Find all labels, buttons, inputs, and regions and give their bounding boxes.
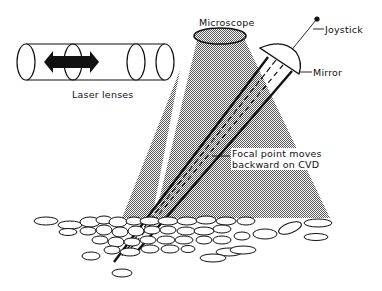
mirror-label: Mirror bbox=[313, 67, 342, 78]
joystick-label: Joystick bbox=[325, 24, 363, 35]
laser-lenses-label: Laser lenses bbox=[72, 89, 133, 100]
joystick-knob-icon bbox=[314, 16, 319, 21]
microscope-label: Microscope bbox=[199, 17, 254, 28]
lens-movement-arrow-icon bbox=[44, 51, 99, 73]
microscope-objective-icon bbox=[194, 28, 246, 44]
diagram-canvas: Microscope Joystick Mirror Laser lenses … bbox=[0, 0, 382, 291]
diagram-svg bbox=[0, 0, 382, 291]
joystick-rod bbox=[290, 20, 316, 52]
focal-point-label-line2: backward on CVD bbox=[231, 159, 320, 170]
focal-point-label-line1: Focal point moves bbox=[231, 148, 323, 159]
cvd-tissue-icon bbox=[34, 216, 332, 277]
